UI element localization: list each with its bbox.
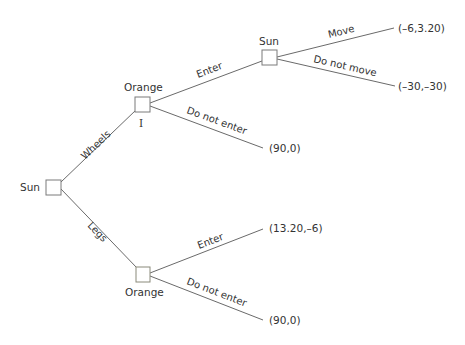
label-edge-lower-enter: Enter: [196, 231, 226, 251]
payoff-upper-do-not-enter: (90,0): [269, 142, 301, 154]
node-upper-sun: [262, 50, 277, 65]
label-edge-legs: Legs: [86, 220, 110, 244]
payoff-do-not-move: (–30,–30): [398, 80, 447, 92]
label-lower-orange-player: Orange: [125, 286, 164, 298]
node-lower-orange: [136, 267, 150, 282]
label-info-set: I: [139, 117, 143, 129]
label-edge-lower-do-not-enter: Do not enter: [185, 276, 249, 309]
game-tree-diagram: Sun Orange I Sun Orange Wheels Legs Ente…: [0, 0, 465, 345]
payoff-lower-enter: (13.20,–6): [269, 222, 323, 234]
label-root-player: Sun: [20, 181, 40, 193]
node-upper-orange: [135, 97, 150, 112]
payoff-move: (–6,3.20): [398, 22, 445, 34]
label-edge-wheels: Wheels: [79, 128, 113, 161]
label-edge-move: Move: [327, 23, 356, 40]
payoff-lower-do-not-enter: (90,0): [269, 314, 301, 326]
node-root-sun: [46, 180, 61, 195]
label-edge-upper-do-not-enter: Do not enter: [185, 105, 249, 137]
label-upper-sun-player: Sun: [259, 35, 279, 47]
label-upper-orange-player: Orange: [124, 81, 163, 93]
